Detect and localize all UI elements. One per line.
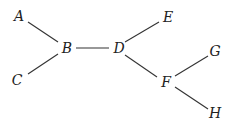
node-e: E	[162, 9, 173, 25]
tree-diagram: A B C D E F G H	[0, 0, 238, 125]
edge-a-b	[28, 22, 58, 42]
edge-c-b	[28, 54, 58, 74]
node-b: B	[61, 40, 72, 56]
edge-f-g	[175, 56, 208, 76]
edges	[28, 22, 208, 109]
node-c: C	[12, 72, 23, 88]
node-a: A	[12, 8, 24, 24]
node-d: D	[112, 40, 124, 56]
edge-d-e	[125, 22, 159, 42]
node-h: H	[208, 105, 222, 121]
node-g: G	[209, 43, 220, 59]
edge-d-f	[125, 55, 157, 77]
node-f: F	[160, 74, 172, 90]
edge-f-h	[175, 87, 208, 109]
